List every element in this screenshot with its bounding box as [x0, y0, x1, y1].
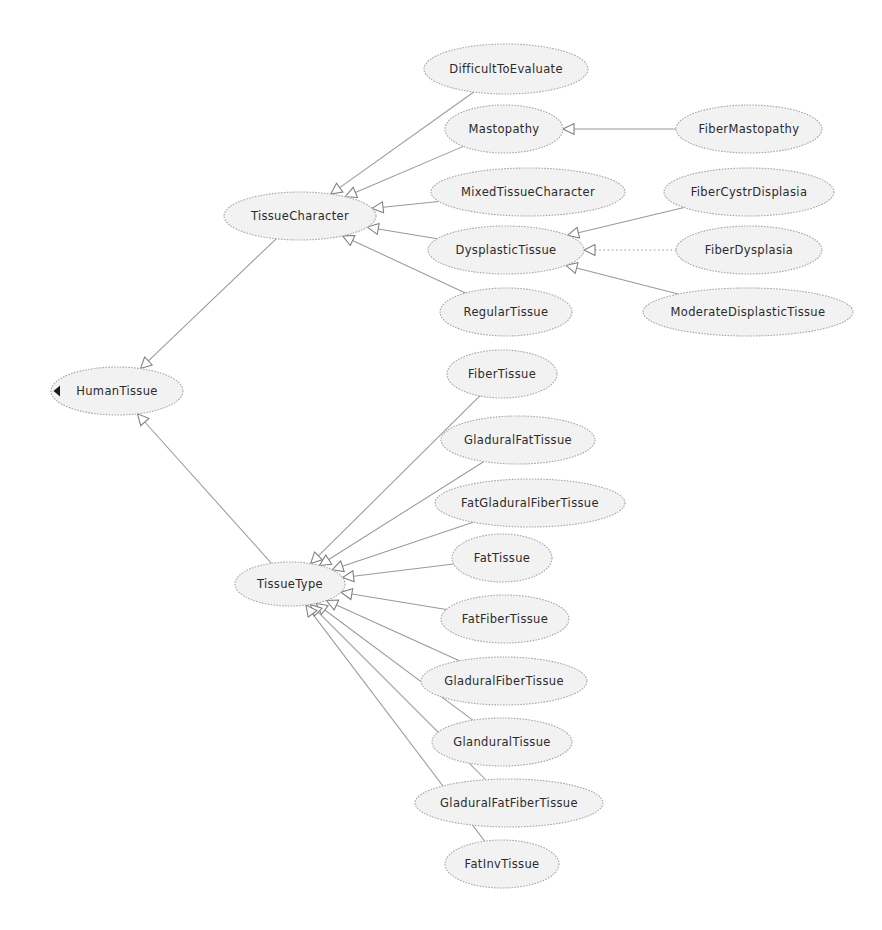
node-HumanTissue[interactable]: HumanTissue	[51, 367, 183, 415]
node-label-MixedTissueCharacter: MixedTissueCharacter	[461, 185, 595, 199]
node-FatFiberTissue[interactable]: FatFiberTissue	[441, 595, 569, 643]
edge-ModerateDisplasticTissue-to-DysplasticTissue	[577, 268, 679, 294]
arrowhead-icon-FiberMastopathy-to-Mastopathy	[563, 124, 574, 135]
edge-TissueType-to-HumanTissue	[145, 422, 272, 563]
node-ModerateDisplasticTissue[interactable]: ModerateDisplasticTissue	[643, 288, 853, 336]
node-label-Mastopathy: Mastopathy	[469, 122, 540, 136]
node-label-ModerateDisplasticTissue: ModerateDisplasticTissue	[671, 305, 826, 319]
node-GladuralFiberTissue[interactable]: GladuralFiberTissue	[421, 657, 587, 705]
diagram-canvas: DifficultToEvaluateMastopathyFiberMastop…	[0, 0, 882, 930]
node-label-HumanTissue: HumanTissue	[76, 384, 158, 398]
node-FatTissue[interactable]: FatTissue	[452, 534, 552, 582]
node-label-FiberCystrDisplasia: FiberCystrDisplasia	[691, 185, 808, 199]
node-DifficultToEvaluate[interactable]: DifficultToEvaluate	[424, 44, 588, 94]
node-label-FiberMastopathy: FiberMastopathy	[699, 122, 800, 136]
node-label-FiberTissue: FiberTissue	[468, 367, 536, 381]
node-label-TissueType: TissueType	[256, 577, 323, 591]
arrowhead-icon-Mastopathy-to-TissueCharacter	[345, 187, 357, 197]
node-GladuralFatTissue[interactable]: GladuralFatTissue	[441, 416, 595, 464]
node-GladuralFatFiberTissue[interactable]: GladuralFatFiberTissue	[415, 779, 603, 827]
node-label-FatGladuralFiberTissue: FatGladuralFiberTissue	[461, 496, 599, 510]
node-FiberTissue[interactable]: FiberTissue	[447, 350, 557, 398]
node-label-GladuralFatFiberTissue: GladuralFatFiberTissue	[440, 796, 578, 810]
edge-TissueCharacter-to-HumanTissue	[148, 239, 276, 361]
node-MixedTissueCharacter[interactable]: MixedTissueCharacter	[431, 168, 625, 216]
edge-FatTissue-to-TissueType	[354, 564, 454, 576]
node-FiberCystrDisplasia[interactable]: FiberCystrDisplasia	[664, 168, 834, 216]
node-label-DysplasticTissue: DysplasticTissue	[455, 243, 556, 257]
node-FatInvTissue[interactable]: FatInvTissue	[445, 840, 559, 888]
arrowhead-icon-FatGladuralFiberTissue-to-TissueType	[332, 561, 344, 571]
node-GlanduralTissue[interactable]: GlanduralTissue	[432, 718, 572, 766]
node-TissueCharacter[interactable]: TissueCharacter	[224, 192, 376, 240]
node-FiberDysplasia[interactable]: FiberDysplasia	[676, 226, 822, 274]
ontology-diagram: DifficultToEvaluateMastopathyFiberMastop…	[0, 0, 882, 930]
edge-DysplasticTissue-to-TissueCharacter	[378, 229, 437, 239]
node-label-TissueCharacter: TissueCharacter	[250, 209, 349, 223]
node-TissueType[interactable]: TissueType	[235, 562, 345, 606]
node-label-GladuralFatTissue: GladuralFatTissue	[464, 433, 572, 447]
node-FatGladuralFiberTissue[interactable]: FatGladuralFiberTissue	[435, 479, 625, 527]
edge-FiberTissue-to-TissueType	[318, 396, 479, 556]
arrowhead-icon-DifficultToEvaluate-to-TissueCharacter	[331, 183, 343, 194]
edge-FiberCystrDisplasia-to-DysplasticTissue	[578, 207, 684, 232]
arrowhead-icon-FiberDysplasia-to-DysplasticTissue	[584, 245, 595, 256]
edge-MixedTissueCharacter-to-TissueCharacter	[383, 201, 439, 207]
node-label-GladuralFiberTissue: GladuralFiberTissue	[444, 674, 564, 688]
node-FiberMastopathy[interactable]: FiberMastopathy	[676, 105, 822, 153]
arrowhead-icon-RegularTissue-to-TissueCharacter	[343, 236, 355, 246]
node-label-RegularTissue: RegularTissue	[464, 305, 549, 319]
node-Mastopathy[interactable]: Mastopathy	[445, 105, 563, 153]
node-RegularTissue[interactable]: RegularTissue	[440, 288, 572, 336]
node-DysplasticTissue[interactable]: DysplasticTissue	[428, 226, 584, 274]
node-label-DifficultToEvaluate: DifficultToEvaluate	[449, 62, 563, 76]
nodes-layer: DifficultToEvaluateMastopathyFiberMastop…	[51, 44, 853, 888]
node-label-FatInvTissue: FatInvTissue	[464, 857, 539, 871]
arrowhead-icon-FatTissue-to-TissueType	[343, 571, 355, 582]
node-label-FiberDysplasia: FiberDysplasia	[705, 243, 793, 257]
node-label-FatFiberTissue: FatFiberTissue	[462, 612, 548, 626]
edge-FatFiberTissue-to-TissueType	[352, 594, 446, 609]
node-label-FatTissue: FatTissue	[474, 551, 530, 565]
node-label-GlanduralTissue: GlanduralTissue	[453, 735, 550, 749]
